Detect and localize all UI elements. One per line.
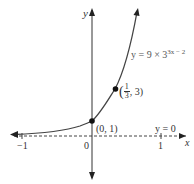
y-axis-arrow-bottom-icon (89, 172, 95, 180)
x-axis-label: x (185, 138, 189, 148)
point-b-label: ( 1 3 , 3) (119, 83, 143, 100)
point-third-3 (113, 86, 119, 92)
exponential-curve (14, 12, 137, 135)
tick-label-neg1: −1 (17, 141, 28, 151)
y-axis-arrow-top-icon (89, 8, 95, 16)
equation-exponent: 3x − 2 (167, 48, 185, 56)
tick-label-0: 0 (84, 141, 89, 151)
point-0-1 (89, 118, 95, 124)
graph-canvas (0, 0, 194, 184)
equation-base: y = 9 × 3 (131, 49, 167, 60)
asymptote-label: y = 0 (155, 124, 176, 134)
point-b-rest: , 3) (130, 87, 143, 97)
fraction-den: 3 (125, 92, 129, 100)
point-a-label: (0, 1) (96, 124, 118, 134)
tick-label-1: 1 (158, 141, 163, 151)
exponential-graph: y x y = 9 × 33x − 2 (0, 1) ( 1 3 , 3) y … (0, 0, 194, 184)
curve-arrow-top-icon (134, 8, 140, 16)
y-axis-label: y (83, 8, 88, 19)
curve-arrow-left-icon (10, 131, 18, 138)
equation-label: y = 9 × 33x − 2 (131, 49, 185, 60)
